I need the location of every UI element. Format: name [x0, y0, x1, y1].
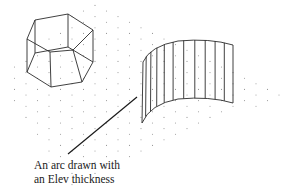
grid-dot: [129, 156, 130, 157]
arc-thickness-line: [142, 62, 143, 123]
grid-dot: [60, 89, 61, 90]
grid-dot: [186, 106, 187, 107]
grid-dot: [140, 50, 141, 51]
grid-dot: [83, 100, 84, 101]
grid-dot: [140, 139, 141, 140]
grid-dot: [60, 156, 61, 157]
grid-dot: [175, 134, 176, 135]
grid-dot: [163, 106, 164, 107]
grid-dot: [186, 72, 187, 73]
grid-dot: [14, 66, 15, 67]
grid-dot: [25, 94, 26, 95]
grid-dot: [117, 117, 118, 118]
grid-dot: [117, 139, 118, 140]
grid-dot: [117, 27, 118, 28]
grid-dot: [117, 50, 118, 51]
grid-dot: [83, 33, 84, 34]
grid-dot: [244, 89, 245, 90]
grid-dot: [186, 117, 187, 118]
hexagon-edge: [50, 52, 51, 87]
grid-dot: [186, 50, 187, 51]
grid-dot: [152, 78, 153, 79]
grid-dot: [60, 100, 61, 101]
grid-dot: [129, 33, 130, 34]
grid-dot: [94, 139, 95, 140]
grid-dot: [106, 78, 107, 79]
grid-dot: [117, 94, 118, 95]
grid-dot: [152, 111, 153, 112]
grid-dot: [140, 117, 141, 118]
grid-dot: [94, 5, 95, 6]
grid-dot: [48, 94, 49, 95]
grid-dot: [255, 106, 256, 107]
grid-dot: [94, 94, 95, 95]
grid-dot: [140, 38, 141, 39]
grid-dot: [244, 100, 245, 101]
grid-dot: [117, 83, 118, 84]
grid-dot: [163, 38, 164, 39]
grid-dot: [163, 117, 164, 118]
grid-dot: [83, 22, 84, 23]
grid-dot: [140, 150, 141, 151]
grid-dot: [152, 33, 153, 34]
grid-dot: [129, 66, 130, 67]
grid-dot: [94, 106, 95, 107]
grid-dot: [94, 38, 95, 39]
grid-dot: [94, 61, 95, 62]
grid-dot: [198, 78, 199, 79]
grid-dot: [140, 27, 141, 28]
grid-dot: [221, 89, 222, 90]
grid-dot: [14, 89, 15, 90]
grid-dot: [37, 111, 38, 112]
grid-dot: [152, 89, 153, 90]
grid-dot: [94, 117, 95, 118]
grid-dot: [152, 44, 153, 45]
grid-dot: [175, 89, 176, 90]
grid-dot: [267, 89, 268, 90]
grid-dot: [94, 150, 95, 151]
grid-dot: [37, 100, 38, 101]
grid-dot: [186, 128, 187, 129]
grid-dot: [175, 78, 176, 79]
grid-dot: [48, 38, 49, 39]
grid-dot: [94, 72, 95, 73]
grid-dot: [71, 72, 72, 73]
grid-dot: [48, 72, 49, 73]
grid-dot: [255, 83, 256, 84]
grid-dot: [152, 134, 153, 135]
grid-dot: [117, 106, 118, 107]
extruded-arc: [142, 40, 233, 123]
leader-line: [68, 97, 137, 154]
grid-dot: [175, 122, 176, 123]
grid-dot: [106, 44, 107, 45]
grid-dot: [129, 134, 130, 135]
grid-dot: [60, 55, 61, 56]
grid-dot: [48, 61, 49, 62]
grid-dot: [25, 117, 26, 118]
caption-line-2: an Elev thickness: [34, 172, 120, 186]
grid-dot: [152, 66, 153, 67]
grid-dot: [37, 89, 38, 90]
hexagon-top-face: [27, 14, 93, 52]
grid-dot: [175, 66, 176, 67]
grid-dot: [83, 44, 84, 45]
grid-dot: [106, 22, 107, 23]
grid-dot: [140, 128, 141, 129]
grid-dot: [152, 145, 153, 146]
grid-dot: [60, 145, 61, 146]
grid-dot: [221, 78, 222, 79]
grid-dot: [175, 55, 176, 56]
grid-dot: [83, 111, 84, 112]
grid-dot: [129, 55, 130, 56]
grid-dot: [71, 38, 72, 39]
grid-dot: [25, 61, 26, 62]
grid-dot: [129, 100, 130, 101]
grid-dot: [117, 38, 118, 39]
grid-dot: [129, 78, 130, 79]
grid-dot: [25, 83, 26, 84]
grid-dot: [255, 94, 256, 95]
grid-dot: [83, 66, 84, 67]
grid-dot: [198, 55, 199, 56]
grid-dot: [60, 44, 61, 45]
grid-dot: [209, 83, 210, 84]
